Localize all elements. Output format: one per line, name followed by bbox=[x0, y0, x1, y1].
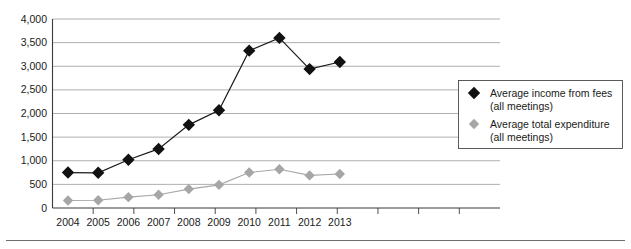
data-point-marker bbox=[123, 192, 133, 202]
data-point-marker bbox=[274, 164, 284, 174]
data-point-marker bbox=[244, 167, 254, 177]
gridlines bbox=[53, 19, 501, 184]
y-tick-label: 4,000 bbox=[21, 13, 47, 25]
x-axis-tick-labels: 2004200520062007200820092010201120122013 bbox=[56, 216, 351, 228]
x-tick-label: 2009 bbox=[207, 216, 231, 228]
data-point-marker bbox=[152, 143, 164, 155]
y-tick-label: 2,500 bbox=[21, 83, 47, 95]
y-tick-label: 1,500 bbox=[21, 131, 47, 143]
legend-item-sublabel: (all meetings) bbox=[490, 131, 553, 143]
data-point-marker bbox=[92, 167, 104, 179]
series-line bbox=[68, 169, 340, 200]
y-axis-tick-labels: 05001,0001,5002,0002,5003,0003,5004,000 bbox=[21, 13, 47, 214]
legend-item-label: Average income from fees bbox=[490, 87, 612, 99]
data-point-marker bbox=[213, 104, 225, 116]
x-axis-tick-marks bbox=[93, 208, 459, 214]
data-point-marker bbox=[122, 154, 134, 166]
x-tick-label: 2010 bbox=[238, 216, 262, 228]
line-chart: 05001,0001,5002,0002,5003,0003,5004,000 … bbox=[0, 0, 631, 249]
data-point-marker bbox=[183, 119, 195, 131]
chart-figure: 05001,0001,5002,0002,5003,0003,5004,000 … bbox=[0, 0, 631, 249]
x-tick-label: 2012 bbox=[298, 216, 322, 228]
y-tick-label: 2,000 bbox=[21, 107, 47, 119]
y-tick-label: 3,000 bbox=[21, 60, 47, 72]
x-tick-label: 2005 bbox=[87, 216, 111, 228]
data-point-marker bbox=[93, 195, 103, 205]
y-tick-label: 3,500 bbox=[21, 36, 47, 48]
x-tick-label: 2011 bbox=[268, 216, 291, 228]
data-point-marker bbox=[63, 195, 73, 205]
data-point-marker bbox=[184, 184, 194, 194]
series-average-income-from-fees bbox=[62, 32, 346, 179]
series-line bbox=[68, 38, 340, 173]
data-point-marker bbox=[62, 166, 74, 178]
y-tick-label: 1,000 bbox=[21, 154, 47, 166]
y-tick-label: 500 bbox=[29, 178, 47, 190]
x-tick-label: 2008 bbox=[177, 216, 201, 228]
legend-item-label: Average total expenditure bbox=[490, 118, 610, 130]
x-tick-label: 2007 bbox=[147, 216, 171, 228]
chart-legend: Average income from fees(all meetings)Av… bbox=[459, 81, 623, 149]
data-point-marker bbox=[335, 169, 345, 179]
data-point-marker bbox=[304, 170, 314, 180]
data-point-marker bbox=[214, 180, 224, 190]
legend-item-sublabel: (all meetings) bbox=[490, 100, 553, 112]
data-point-marker bbox=[243, 44, 255, 56]
data-point-marker bbox=[153, 190, 163, 200]
x-tick-label: 2004 bbox=[56, 216, 80, 228]
x-tick-label: 2013 bbox=[328, 216, 352, 228]
x-tick-label: 2006 bbox=[117, 216, 141, 228]
y-tick-label: 0 bbox=[41, 202, 47, 214]
